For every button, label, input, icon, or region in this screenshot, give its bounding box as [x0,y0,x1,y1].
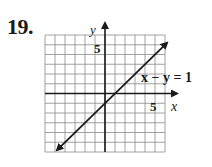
x-tick-label-5: 5 [150,99,157,114]
coordinate-graph: y x 5 5 x − y = 1 [0,0,212,167]
series-line [57,43,167,150]
plot-line [57,43,167,150]
y-tick-label-5: 5 [94,41,101,56]
x-axis-label: x [170,99,178,114]
equation-label: x − y = 1 [141,70,192,85]
y-axis-label: y [88,22,96,37]
